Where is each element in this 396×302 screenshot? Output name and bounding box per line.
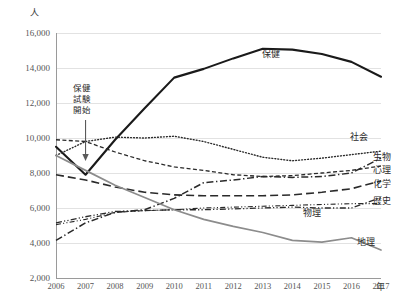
series-label-社会: 社会 [350,130,368,143]
series-line-地理 [56,156,381,251]
series-line-歴史 [56,198,381,223]
annotation-line: 試験 [73,94,91,105]
series-label-歴史: 歴史 [373,194,391,207]
series-label-生物: 生物 [373,150,391,163]
plot-area [0,0,396,302]
series-line-化学 [56,175,381,196]
series-label-地理: 地理 [357,235,375,248]
annotation-line: 保健 [73,83,91,94]
series-label-物理: 物理 [303,206,321,219]
series-line-生物 [56,158,381,240]
series-line-社会 [56,136,381,161]
annotation-arrow-head [82,154,88,161]
series-label-化学: 化学 [373,177,391,190]
series-line-物理 [56,204,381,225]
line-chart: 人 年 2,0004,0006,0008,00010,00012,00014,0… [0,0,396,302]
series-line-保健 [56,49,381,175]
series-label-心理: 心理 [373,163,391,176]
annotation-health-exam-start: 保健試験開始 [73,83,91,116]
annotation-line: 開始 [73,105,91,116]
series-line-心理 [56,140,381,177]
series-label-保健: 保健 [262,47,280,60]
